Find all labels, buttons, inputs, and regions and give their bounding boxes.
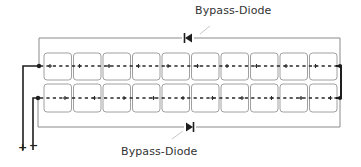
bottom-bypass-diode-icon (184, 122, 196, 132)
junction-dot (37, 64, 41, 68)
junction-dot (338, 64, 342, 68)
bottom-bypass-diode-label: Bypass-Diode (121, 145, 197, 158)
negative-terminal-label: − (29, 139, 38, 152)
positive-terminal-label: + (18, 141, 27, 154)
junction-dot (338, 96, 342, 100)
label-leader-top (200, 26, 210, 34)
top-bypass-diode-icon (182, 33, 194, 43)
bypass-frame (38, 38, 340, 127)
terminal-leads (23, 66, 39, 150)
top-bypass-diode-label: Bypass-Diode (195, 4, 271, 17)
solar-module-diagram (0, 0, 361, 167)
junction-dot (36, 96, 40, 100)
label-leader-bottom (172, 131, 183, 139)
